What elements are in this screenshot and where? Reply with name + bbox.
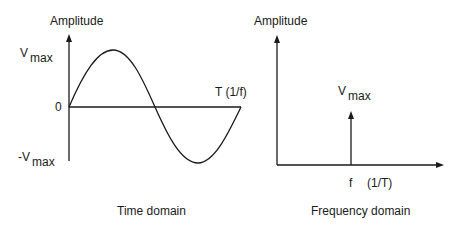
- diagram-canvas: [0, 0, 455, 231]
- v-max-main: V: [20, 46, 28, 60]
- neg-v-max-label: -Vmax: [18, 151, 55, 163]
- frequency-label: f: [349, 177, 352, 189]
- spike-v-max-sub: max: [348, 89, 371, 103]
- v-max-label: Vmax: [20, 47, 53, 59]
- spike-v-max-main: V: [338, 84, 346, 98]
- time-y-axis-label: Amplitude: [50, 15, 103, 27]
- spike-v-max-label: Vmax: [338, 85, 371, 97]
- frequency-period-label: (1/T): [367, 177, 392, 189]
- neg-v-max-main: -V: [18, 150, 30, 164]
- neg-v-max-sub: max: [32, 155, 55, 169]
- frequency-domain-caption: Frequency domain: [311, 205, 410, 217]
- freq-y-axis-label: Amplitude: [254, 15, 307, 27]
- time-domain-caption: Time domain: [117, 205, 186, 217]
- period-label: T (1/f): [215, 86, 247, 98]
- v-max-sub: max: [30, 51, 53, 65]
- zero-label: 0: [55, 101, 62, 113]
